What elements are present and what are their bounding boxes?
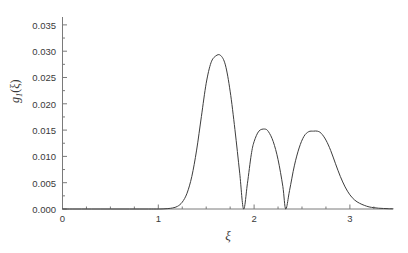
y-tick-label: 0.000 xyxy=(8,204,56,215)
y-tick-label: 0.030 xyxy=(8,46,56,57)
x-tick-label: 0 xyxy=(60,213,65,224)
y-axis-label-base: g xyxy=(8,97,22,103)
axes-spines xyxy=(63,17,394,209)
y-axis-label: g1(ξ) xyxy=(8,79,24,103)
y-axis-label-subscript: 1 xyxy=(14,93,24,97)
x-axis-label: ξ xyxy=(225,228,231,244)
y-tick-label: 0.015 xyxy=(8,125,56,136)
x-tick-label: 2 xyxy=(251,213,256,224)
y-axis-label-argument: (ξ) xyxy=(8,79,22,92)
data-series-line xyxy=(63,55,394,210)
figure-container: 0.0000.0050.0100.0150.0200.0250.0300.035… xyxy=(0,0,408,253)
x-tick-label: 1 xyxy=(156,213,161,224)
y-tick-label: 0.035 xyxy=(8,19,56,30)
y-tick-label: 0.010 xyxy=(8,151,56,162)
x-tick-label: 3 xyxy=(347,213,352,224)
y-tick-label: 0.005 xyxy=(8,177,56,188)
